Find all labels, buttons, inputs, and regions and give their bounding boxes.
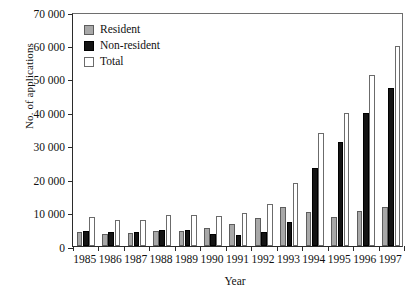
- x-axis-tick: [226, 246, 227, 251]
- bar-nonresident[interactable]: [388, 88, 394, 246]
- x-axis-tick-label: 1997: [378, 252, 403, 266]
- x-axis-tick: [328, 246, 329, 251]
- x-axis-tick: [302, 246, 303, 251]
- bar-total[interactable]: [293, 183, 299, 246]
- legend-label: Total: [100, 55, 123, 68]
- x-axis-tick: [251, 246, 252, 251]
- chart-figure: No. of applications 010 00020 00030 0004…: [0, 0, 415, 299]
- bar-group: [379, 14, 404, 246]
- x-axis-tick-label: 1985: [72, 252, 97, 266]
- bar-resident[interactable]: [102, 234, 108, 246]
- bar-group: [302, 14, 327, 246]
- x-axis-tick-label: 1987: [123, 252, 148, 266]
- bar-total[interactable]: [395, 46, 401, 246]
- bar-nonresident[interactable]: [312, 168, 318, 246]
- x-axis-tick-label: 1995: [327, 252, 352, 266]
- y-axis-tick-label: 70 000: [33, 7, 65, 22]
- x-axis-tick-label: 1991: [225, 252, 250, 266]
- legend-item-resident[interactable]: Resident: [84, 22, 204, 37]
- bar-nonresident[interactable]: [134, 232, 140, 246]
- bar-resident[interactable]: [128, 233, 134, 246]
- x-axis-tick-label: 1994: [301, 252, 326, 266]
- x-axis-tick: [175, 246, 176, 251]
- y-axis-tick-label: 20 000: [33, 174, 65, 189]
- bar-total[interactable]: [242, 213, 248, 246]
- bar-nonresident[interactable]: [83, 231, 89, 246]
- bar-total[interactable]: [369, 75, 375, 246]
- x-axis-tick: [98, 246, 99, 251]
- x-axis-tick-label: 1986: [97, 252, 122, 266]
- bar-resident[interactable]: [306, 212, 312, 246]
- bar-total[interactable]: [115, 220, 121, 246]
- bar-group: [328, 14, 353, 246]
- bar-nonresident[interactable]: [363, 113, 369, 246]
- bar-total[interactable]: [191, 215, 197, 246]
- bar-resident[interactable]: [179, 231, 185, 246]
- bar-nonresident[interactable]: [108, 232, 114, 246]
- legend-label: Resident: [100, 23, 140, 36]
- x-axis-tick: [200, 246, 201, 251]
- legend-item-total[interactable]: Total: [84, 54, 204, 69]
- bar-group: [251, 14, 276, 246]
- bar-resident[interactable]: [255, 218, 261, 246]
- bar-nonresident[interactable]: [185, 230, 191, 246]
- bar-total[interactable]: [267, 204, 273, 246]
- bar-nonresident[interactable]: [338, 142, 344, 246]
- y-axis-tick-label: 30 000: [33, 140, 65, 155]
- x-axis-tick-labels: 1985198619871988198919901991199219931994…: [72, 252, 403, 270]
- bar-resident[interactable]: [357, 211, 363, 246]
- bar-total[interactable]: [166, 215, 172, 246]
- x-axis-tick: [353, 246, 354, 251]
- legend-swatch-total: [84, 57, 94, 67]
- y-axis-tick-label: 40 000: [33, 107, 65, 122]
- legend-label: Non-resident: [100, 39, 160, 52]
- bar-nonresident[interactable]: [159, 230, 165, 246]
- bar-group: [353, 14, 378, 246]
- y-axis-tick-label: 60 000: [33, 40, 65, 55]
- legend-swatch-resident: [84, 25, 94, 35]
- bar-nonresident[interactable]: [287, 222, 293, 246]
- x-axis-tick-label: 1996: [352, 252, 377, 266]
- bar-resident[interactable]: [331, 217, 337, 246]
- x-axis-tick: [73, 246, 74, 251]
- chart-legend: ResidentNon-residentTotal: [84, 22, 204, 70]
- bar-resident[interactable]: [204, 228, 210, 246]
- bar-resident[interactable]: [229, 224, 235, 246]
- bar-group: [200, 14, 225, 246]
- bar-total[interactable]: [318, 133, 324, 246]
- bar-resident[interactable]: [280, 207, 286, 246]
- y-axis-tick-label: 10 000: [33, 207, 65, 222]
- x-axis-tick-label: 1993: [276, 252, 301, 266]
- bar-total[interactable]: [89, 217, 95, 246]
- x-axis-title: Year: [70, 275, 400, 288]
- bar-total[interactable]: [216, 216, 222, 246]
- x-axis-tick: [124, 246, 125, 251]
- x-axis-tick: [277, 246, 278, 251]
- x-axis-tick-label: 1990: [199, 252, 224, 266]
- bar-nonresident[interactable]: [236, 235, 242, 246]
- x-axis-tick-label: 1992: [250, 252, 275, 266]
- bar-nonresident[interactable]: [210, 234, 216, 246]
- legend-swatch-non-resident: [84, 41, 94, 51]
- bar-nonresident[interactable]: [261, 232, 267, 246]
- bar-resident[interactable]: [153, 231, 159, 246]
- x-axis-tick-label: 1989: [174, 252, 199, 266]
- bar-group: [277, 14, 302, 246]
- y-axis-tick-label: 0: [59, 241, 65, 256]
- bar-total[interactable]: [344, 113, 350, 246]
- bar-total[interactable]: [140, 220, 146, 246]
- x-axis-tick: [379, 246, 380, 251]
- y-axis-tick-label: 50 000: [33, 73, 65, 88]
- x-axis-tick-label: 1988: [148, 252, 173, 266]
- legend-item-non-resident[interactable]: Non-resident: [84, 38, 204, 53]
- x-axis-tick: [149, 246, 150, 251]
- bar-group: [226, 14, 251, 246]
- x-axis-tick: [404, 246, 405, 251]
- bar-resident[interactable]: [77, 232, 83, 246]
- bar-resident[interactable]: [382, 207, 388, 246]
